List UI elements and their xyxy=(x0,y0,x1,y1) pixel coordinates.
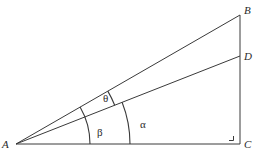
angle-label-alpha: α xyxy=(140,118,146,130)
triangle-angle-diagram: A B D C θ β α xyxy=(0,0,258,150)
point-label-d: D xyxy=(243,50,252,62)
alpha-arc xyxy=(122,102,130,144)
point-label-c: C xyxy=(244,138,252,150)
point-label-b: B xyxy=(244,4,251,16)
angle-label-beta: β xyxy=(97,126,103,138)
beta-arc xyxy=(80,107,90,144)
point-label-a: A xyxy=(1,138,9,150)
segment-ad xyxy=(16,56,240,144)
angle-label-theta: θ xyxy=(103,92,108,104)
right-angle-marker xyxy=(229,136,234,141)
theta-arc xyxy=(108,91,115,105)
